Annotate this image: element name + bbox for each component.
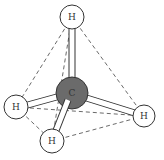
carbon-label: C: [69, 88, 76, 98]
svg-text:H: H: [48, 136, 56, 146]
svg-text:H: H: [12, 102, 20, 112]
bond-right: [80, 96, 138, 114]
hydrogen-atom-left: H: [4, 95, 28, 119]
svg-text:H: H: [68, 12, 76, 22]
carbon-atom: C: [56, 77, 88, 109]
hydrogen-atom-right: H: [133, 105, 155, 127]
hydrogen-atom-top: H: [60, 5, 84, 29]
hydrogen-atom-bottom: H: [40, 129, 64, 153]
svg-text:H: H: [140, 111, 148, 121]
methane-diagram: C H H H H: [0, 0, 164, 160]
